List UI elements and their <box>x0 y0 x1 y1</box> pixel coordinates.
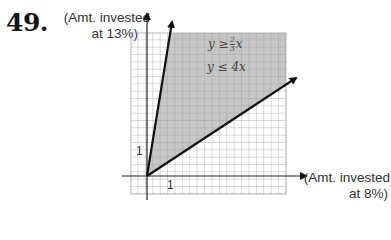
x-axis-label: (Amt. invested at 8%) <box>298 170 390 202</box>
y-tick-label: 1 <box>136 144 143 158</box>
x-tick-label: 1 <box>167 178 174 192</box>
inequality-1: y ≥23x <box>208 36 243 53</box>
x-axis-label-line2: at 8%) <box>298 186 390 202</box>
grid <box>131 33 286 194</box>
fraction-numerator: 2 <box>230 36 235 44</box>
fraction-denominator: 3 <box>230 44 235 53</box>
inequality-2: y ≤ 4x <box>207 60 246 74</box>
x-axis-label-line1: (Amt. invested <box>298 170 390 186</box>
